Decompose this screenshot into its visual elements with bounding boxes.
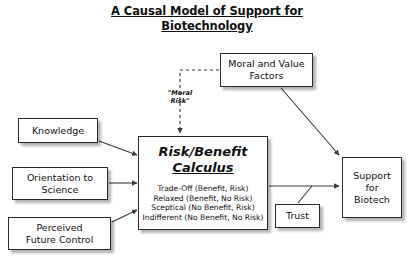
edge-perceived-to-calculus (112, 210, 137, 222)
node-perceived-future-control-label: Perceived Future Control (23, 222, 97, 246)
node-support-for-biotech-label: Support for Biotech (350, 170, 394, 206)
node-knowledge[interactable]: Knowledge (18, 118, 98, 143)
node-moral-and-value-factors[interactable]: Moral and Value Factors (220, 53, 313, 87)
node-risk-benefit-calculus-items: Trade-Off (Benefit, Risk) Relaxed (Benef… (143, 184, 264, 222)
edge-moral-to-support (281, 88, 339, 155)
edge-trust-to-support (298, 186, 312, 203)
edge-label-moral-risk: "Moral Risk" (160, 89, 200, 105)
node-orientation-to-science[interactable]: Orientation to Science (12, 167, 108, 200)
node-moral-and-value-factors-label: Moral and Value Factors (225, 58, 307, 82)
node-risk-benefit-calculus[interactable]: Risk/Benefit Calculus Trade-Off (Benefit… (138, 136, 268, 230)
node-perceived-future-control[interactable]: Perceived Future Control (8, 217, 111, 250)
node-trust-label: Trust (283, 210, 312, 222)
node-support-for-biotech[interactable]: Support for Biotech (342, 157, 402, 218)
node-risk-benefit-calculus-heading: Risk/Benefit Calculus (159, 144, 248, 175)
node-orientation-to-science-label: Orientation to Science (24, 172, 96, 196)
calculus-heading-line1: Risk/Benefit (159, 144, 248, 159)
node-trust[interactable]: Trust (275, 204, 320, 228)
diagram-canvas: A Causal Model of Support for Biotechnol… (0, 0, 414, 269)
calculus-heading-line2: Calculus (172, 160, 233, 175)
node-knowledge-label: Knowledge (29, 125, 87, 137)
edge-knowledge-to-calculus (99, 141, 137, 155)
